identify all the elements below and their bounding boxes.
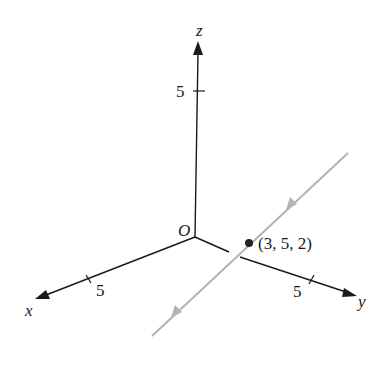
z-tick-label: 5 bbox=[176, 82, 185, 101]
z-axis bbox=[193, 41, 205, 237]
y-tick-label: 5 bbox=[293, 282, 302, 301]
y-arrow-icon bbox=[342, 288, 357, 297]
origin-label: O bbox=[178, 221, 190, 240]
line-arrow-icon bbox=[171, 305, 182, 318]
x-axis-label: x bbox=[24, 301, 33, 320]
x-arrow-icon bbox=[35, 290, 50, 299]
y-axis-label: y bbox=[356, 292, 366, 311]
coordinate-diagram: z 5 O x 5 y 5 (3, 5, 2) bbox=[0, 0, 386, 367]
line-arrow-icon bbox=[286, 197, 297, 210]
z-axis-label: z bbox=[195, 21, 203, 40]
z-arrow-icon bbox=[193, 41, 203, 55]
point-marker bbox=[245, 239, 253, 247]
point-label: (3, 5, 2) bbox=[258, 234, 312, 253]
x-axis bbox=[35, 237, 195, 299]
x-tick-label: 5 bbox=[96, 281, 105, 300]
